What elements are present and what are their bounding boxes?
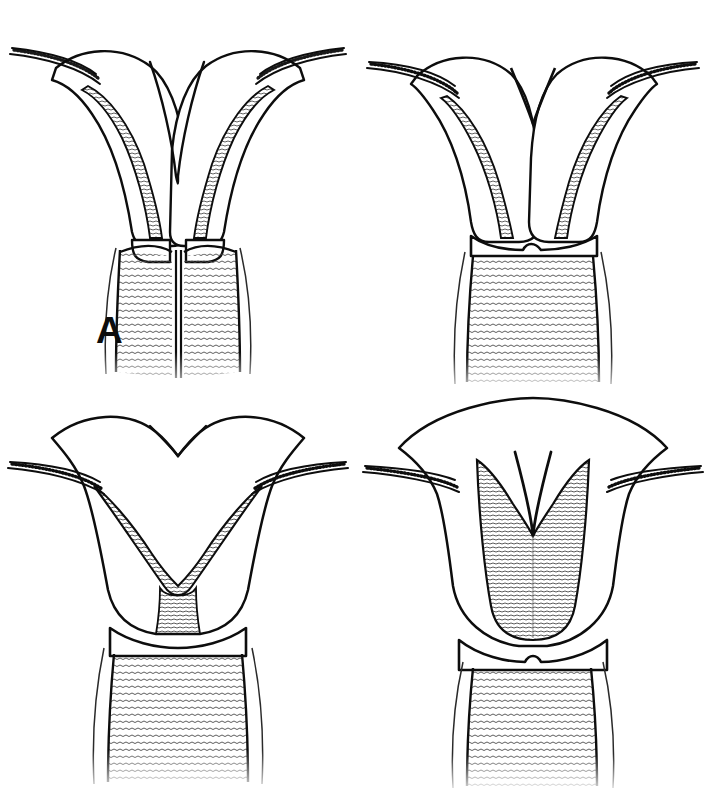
panel-b-bicornuate-uterus: B <box>355 0 711 398</box>
panel-a-uterus-didelphys: A <box>0 0 356 398</box>
panel-c-arcuate-uterus: C <box>0 390 356 796</box>
panel-d-septate-uterus: D <box>355 390 711 796</box>
panel-label-a: A <box>96 312 122 349</box>
uterine-anomaly-figure: A <box>0 0 711 796</box>
